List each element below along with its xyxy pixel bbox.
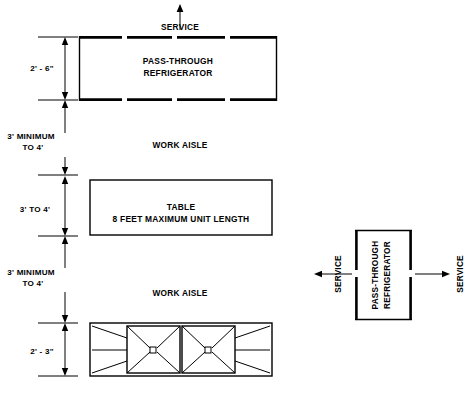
table-plan: TABLE 8 FEET MAXIMUM UNIT LENGTH [90, 180, 272, 235]
dim-arrow-fridge-up [62, 37, 68, 45]
range-plan [90, 323, 272, 376]
dimension-range-depth: 2' - 3" [30, 323, 78, 376]
side-service-arrow-left-group [314, 271, 352, 277]
dimension-label-lower-aisle-line1: 3' MINIMUM [7, 268, 55, 277]
refrigerator-top-label-line1: PASS-THROUGH [143, 56, 213, 66]
work-aisle-label-upper: WORK AISLE [152, 140, 207, 150]
dimension-upper-aisle: 3' MINIMUM TO 4' [7, 100, 78, 175]
side-service-arrow-right-head [442, 271, 450, 277]
dimension-refrigerator-depth: 2' - 6" [30, 37, 78, 100]
range-burner-2 [182, 326, 235, 373]
dimension-label-table-depth: 3' TO 4' [20, 205, 50, 214]
refrigerator-top-label-line2: REFRIGERATOR [143, 68, 212, 78]
dim-arrow-table-down [62, 228, 68, 236]
refrigerator-side-label-line2: REFRIGERATOR [383, 241, 392, 309]
dimension-label-upper-aisle-line2: TO 4' [22, 143, 43, 152]
side-service-arrow-right-group [415, 271, 450, 277]
dimension-label-refrigerator-depth: 2' - 6" [30, 64, 54, 73]
floor-plan-diagram: SERVICE PASS-THROUGH REFRIGERATOR [0, 0, 474, 394]
refrigerator-top-plan: PASS-THROUGH REFRIGERATOR [79, 36, 277, 101]
work-aisle-label-lower: WORK AISLE [152, 288, 207, 298]
range-burner-2-center [205, 347, 211, 353]
dim-arrow-upper-aisle-down [62, 167, 68, 175]
service-label-side-left: SERVICE [334, 255, 343, 293]
dim-arrow-range-up [62, 323, 68, 331]
service-arrow-head-top [177, 4, 184, 12]
service-label-side-right: SERVICE [456, 255, 465, 293]
service-label-top: SERVICE [161, 22, 199, 32]
dimension-lower-aisle: 3' MINIMUM TO 4' [7, 236, 78, 323]
table-label-line1: TABLE [167, 202, 196, 212]
dim-arrow-table-up [62, 176, 68, 184]
dimension-table-depth: 3' TO 4' [20, 176, 78, 236]
refrigerator-side-label-line1: PASS-THROUGH [371, 241, 380, 310]
dim-arrow-fridge-down [62, 92, 68, 100]
diagram-canvas: SERVICE PASS-THROUGH REFRIGERATOR [0, 0, 474, 394]
refrigerator-side-elevation: PASS-THROUGH REFRIGERATOR [355, 230, 412, 320]
range-burner-1 [127, 326, 180, 373]
table-label-line2: 8 FEET MAXIMUM UNIT LENGTH [113, 214, 250, 224]
dimension-label-upper-aisle-line1: 3' MINIMUM [7, 132, 55, 141]
dim-arrow-upper-aisle-up [62, 100, 68, 108]
dim-arrow-lower-aisle-down [62, 315, 68, 323]
dim-arrow-lower-aisle-up [62, 236, 68, 244]
side-service-arrow-left-head [314, 271, 322, 277]
range-burner-1-center [150, 347, 156, 353]
dim-arrow-range-down [62, 368, 68, 376]
dimension-label-lower-aisle-line2: TO 4' [22, 279, 43, 288]
dimension-label-range-depth: 2' - 3" [30, 347, 54, 356]
